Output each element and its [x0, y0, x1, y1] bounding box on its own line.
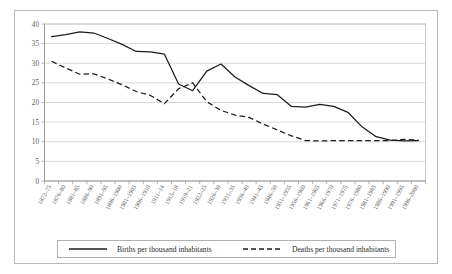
chart-legend: Births per thousand inhabitantsDeaths pe… — [58, 241, 396, 258]
legend-label-deaths: Deaths per thousand inhabitants — [292, 245, 389, 254]
y-tick-label: 5 — [35, 158, 39, 166]
demographic-transition-chart: 0510152025303540 1872–751876–801881–8518… — [0, 0, 452, 274]
y-axis-ticks: 0510152025303540 — [32, 21, 45, 186]
y-tick-label: 25 — [32, 79, 40, 87]
y-tick-label: 35 — [32, 40, 40, 48]
y-tick-label: 0 — [35, 178, 39, 186]
y-tick-label: 30 — [32, 60, 40, 68]
data-series-group — [52, 32, 419, 141]
y-tick-label: 15 — [32, 119, 40, 127]
legend-label-births: Births per thousand inhabitants — [117, 245, 212, 254]
births-line — [52, 32, 419, 141]
deaths-line — [52, 61, 419, 141]
x-axis-ticks — [45, 181, 426, 184]
y-tick-label: 20 — [32, 99, 40, 107]
y-tick-label: 10 — [32, 138, 40, 146]
y-tick-label: 40 — [32, 21, 40, 29]
x-axis-labels: 1872–751876–801881–851886–901891–951896–… — [37, 184, 420, 211]
